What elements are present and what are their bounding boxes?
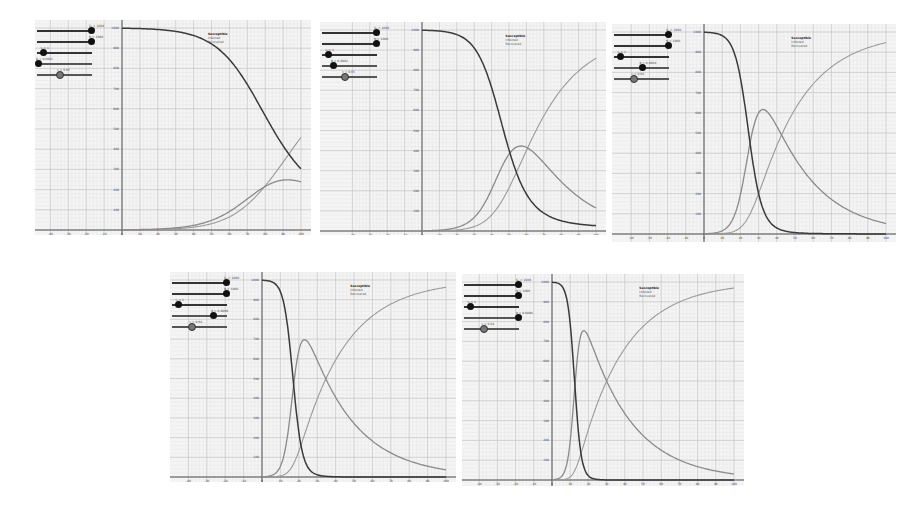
y-tick-label: 900 bbox=[253, 298, 259, 302]
x-tick-label: -30 bbox=[367, 233, 372, 235]
slider-knob[interactable] bbox=[515, 314, 522, 321]
slider-knob[interactable] bbox=[175, 301, 182, 308]
parameter-slider[interactable]: N = 1000 bbox=[322, 43, 377, 45]
x-tick-label: 10 bbox=[278, 479, 282, 482]
sir-plot-5: -40-30-20-100102030405060708090100100200… bbox=[462, 274, 744, 486]
x-tick-label: 100 bbox=[883, 236, 889, 240]
parameter-slider[interactable]: I₀ = 1 bbox=[37, 52, 92, 54]
parameter-slider[interactable]: N = 1000 bbox=[464, 295, 519, 297]
x-tick-label: 40 bbox=[490, 233, 494, 235]
parameter-slider[interactable]: γ = 0.05 bbox=[322, 76, 377, 78]
y-tick-label: 1000 bbox=[693, 30, 701, 34]
slider-label: N = 1000 bbox=[224, 287, 238, 291]
y-tick-label: 500 bbox=[113, 127, 119, 131]
x-tick-label: -30 bbox=[204, 479, 209, 482]
slider-knob[interactable] bbox=[373, 40, 380, 47]
parameter-slider[interactable]: N = 1000 bbox=[614, 45, 669, 47]
x-tick-label: 20 bbox=[738, 236, 742, 240]
slider-knob[interactable] bbox=[88, 27, 95, 34]
slider-label: N = 1000 bbox=[89, 35, 103, 39]
parameter-slider[interactable]: N = 1000 bbox=[37, 41, 92, 43]
slider-knob[interactable] bbox=[617, 53, 624, 60]
y-tick-label: 500 bbox=[695, 131, 701, 135]
parameter-slider[interactable]: S₀ = 1000 bbox=[172, 282, 227, 284]
y-tick-label: 400 bbox=[113, 147, 119, 151]
parameter-slider[interactable]: γ = 0.05 bbox=[37, 74, 92, 76]
parameter-slider[interactable]: I₀ = 1 bbox=[172, 304, 227, 306]
parameter-slider[interactable]: β = 0.0002 bbox=[322, 65, 377, 67]
parameter-slider[interactable]: β = 0.0004 bbox=[614, 67, 669, 69]
x-tick-label: -40 bbox=[48, 232, 53, 235]
x-tick-label: 100 bbox=[298, 232, 304, 235]
slider-label: β = 0.0002 bbox=[331, 59, 348, 63]
x-tick-label: -40 bbox=[477, 482, 482, 486]
slider-knob[interactable] bbox=[373, 29, 380, 36]
parameter-slider[interactable]: β = 0.0001 bbox=[37, 63, 92, 65]
y-tick-label: 200 bbox=[543, 438, 549, 442]
y-tick-label: 300 bbox=[695, 171, 701, 175]
slider-knob[interactable] bbox=[639, 64, 646, 71]
x-tick-label: -20 bbox=[385, 233, 390, 235]
y-tick-label: 900 bbox=[695, 50, 701, 54]
x-tick-label: 40 bbox=[192, 232, 196, 235]
slider-knob[interactable] bbox=[223, 279, 230, 286]
y-tick-label: 700 bbox=[695, 91, 701, 95]
slider-label: β = 0.0001 bbox=[36, 57, 53, 61]
slider-knob[interactable] bbox=[665, 42, 672, 49]
parameter-slider[interactable]: I₀ = 1 bbox=[464, 306, 519, 308]
slider-knob[interactable] bbox=[341, 73, 349, 81]
x-tick-label: 0 bbox=[261, 479, 263, 482]
slider-label: γ = 0.04 bbox=[189, 320, 202, 324]
x-tick-label: 40 bbox=[775, 236, 779, 240]
x-tick-label: 80 bbox=[263, 232, 267, 235]
x-tick-label: -10 bbox=[683, 236, 688, 240]
x-tick-label: -10 bbox=[531, 482, 536, 486]
parameter-slider[interactable]: β = 0.0008 bbox=[464, 317, 519, 319]
slider-knob[interactable] bbox=[56, 71, 64, 79]
slider-knob[interactable] bbox=[467, 303, 474, 310]
slider-knob[interactable] bbox=[40, 49, 47, 56]
legend: SusceptibleInfectedRecovered bbox=[791, 36, 811, 48]
slider-knob[interactable] bbox=[330, 62, 337, 69]
slider-knob[interactable] bbox=[223, 290, 230, 297]
slider-label: I₀ = 1 bbox=[326, 48, 334, 52]
slider-knob[interactable] bbox=[88, 38, 95, 45]
x-tick-label: 50 bbox=[507, 233, 511, 235]
y-tick-label: 600 bbox=[113, 107, 119, 111]
parameter-slider[interactable]: I₀ = 1 bbox=[322, 54, 377, 56]
x-tick-label: 30 bbox=[472, 233, 476, 235]
x-tick-label: -20 bbox=[223, 479, 228, 482]
parameter-slider[interactable]: S₀ = 1000 bbox=[322, 32, 377, 34]
y-tick-label: 1000 bbox=[251, 278, 259, 282]
slider-knob[interactable] bbox=[665, 31, 672, 38]
parameter-slider[interactable]: I₀ = 1 bbox=[614, 56, 669, 58]
legend: SusceptibleInfectedRecovered bbox=[639, 286, 659, 298]
parameter-slider[interactable]: γ = 0.04 bbox=[464, 328, 519, 330]
slider-knob[interactable] bbox=[325, 51, 332, 58]
x-tick-label: -10 bbox=[241, 479, 246, 482]
y-tick-label: 400 bbox=[413, 149, 419, 153]
parameter-slider[interactable]: β = 0.0006 bbox=[172, 315, 227, 317]
sir-plot-2: -40-30-20-100102030405060708090100100200… bbox=[320, 22, 606, 235]
slider-knob[interactable] bbox=[515, 292, 522, 299]
parameter-slider[interactable]: γ = 0.04 bbox=[614, 78, 669, 80]
parameter-slider[interactable]: S₀ = 1000 bbox=[614, 34, 669, 36]
y-tick-label: 900 bbox=[413, 48, 419, 52]
y-tick-label: 400 bbox=[253, 396, 259, 400]
x-tick-label: 70 bbox=[677, 482, 681, 486]
x-tick-label: 20 bbox=[156, 232, 160, 235]
y-tick-label: 100 bbox=[543, 458, 549, 462]
parameter-slider[interactable]: γ = 0.04 bbox=[172, 326, 227, 328]
x-tick-label: 90 bbox=[714, 482, 718, 486]
x-tick-label: 10 bbox=[138, 232, 142, 235]
x-tick-label: 80 bbox=[696, 482, 700, 486]
x-tick-label: 30 bbox=[174, 232, 178, 235]
y-tick-label: 900 bbox=[543, 300, 549, 304]
x-tick-label: -20 bbox=[665, 236, 670, 240]
parameter-slider[interactable]: S₀ = 1000 bbox=[464, 284, 519, 286]
parameter-slider[interactable]: N = 1000 bbox=[172, 293, 227, 295]
y-tick-label: 700 bbox=[413, 88, 419, 92]
slider-label: N = 1000 bbox=[666, 39, 680, 43]
slider-knob[interactable] bbox=[515, 281, 522, 288]
parameter-slider[interactable]: S₀ = 1000 bbox=[37, 30, 92, 32]
